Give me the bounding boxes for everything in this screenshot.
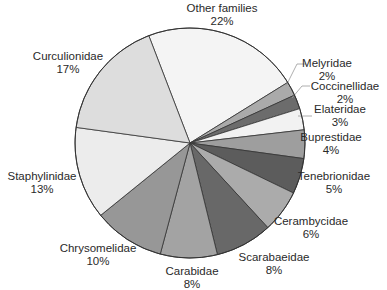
slice-name: Cerambycidae [274,215,348,228]
slice-label: Elateridae3% [314,103,366,129]
slice-name: Curculionidae [33,50,103,63]
slice-percent: 8% [165,278,218,290]
slice-label: Staphylinidae13% [7,170,76,196]
slice-percent: 10% [60,255,137,268]
slice-label: Cerambycidae6% [274,215,348,241]
slice-percent: 3% [314,116,366,129]
slice-name: Elateridae [314,103,366,116]
slice-label: Chrysomelidae10% [60,242,137,268]
slice-name: Other families [187,2,258,15]
slice-percent: 5% [298,183,370,196]
slice-label: Curculionidae17% [33,50,103,76]
slice-percent: 13% [7,183,76,196]
slice-percent: 8% [239,264,310,277]
slice-percent: 4% [300,144,361,157]
slice-label: Scarabaeidae8% [239,251,310,277]
slice-percent: 6% [274,228,348,241]
slice-percent: 22% [187,15,258,28]
slice-name: Buprestidae [300,131,361,144]
slice-percent: 17% [33,63,103,76]
slice-name: Melyridae [302,57,352,70]
slice-name: Tenebrionidae [298,170,370,183]
slice-name: Carabidae [165,265,218,278]
slice-label: Tenebrionidae5% [298,170,370,196]
slice-name: Chrysomelidae [60,242,137,255]
slice-name: Scarabaeidae [239,251,310,264]
slice-label: Other families22% [187,2,258,28]
slice-name: Staphylinidae [7,170,76,183]
slice-name: Coccinellidae [311,80,379,93]
slice-label: Carabidae8% [165,265,218,290]
slice-label: Buprestidae4% [300,131,361,157]
